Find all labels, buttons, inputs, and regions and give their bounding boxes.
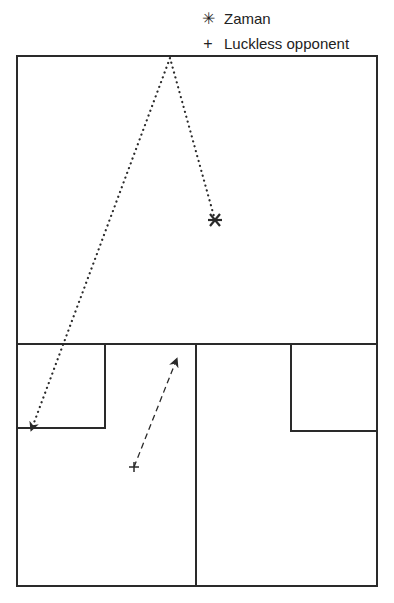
- court-diagram: [0, 0, 394, 603]
- right-service-box: [291, 344, 377, 431]
- opponent-plus-icon: [129, 462, 139, 472]
- left-service-box: [17, 344, 105, 428]
- opponent-path-dashed: [134, 361, 176, 467]
- ball-path-dotted: [32, 58, 215, 428]
- zaman-asterisk-icon: [208, 214, 222, 226]
- movement-paths: [32, 58, 215, 467]
